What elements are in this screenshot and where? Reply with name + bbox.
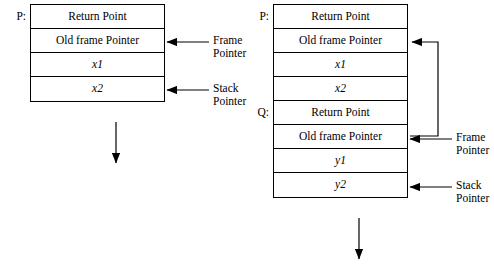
right-stack-cell-5: Old frame Pointer xyxy=(274,125,407,149)
left-stack-cell-2: x1 xyxy=(31,53,164,77)
right-stack-pointer-label: Stack Pointer xyxy=(456,179,489,205)
left-stack-pointer-label-line1: Stack xyxy=(213,82,246,95)
right-stack-cell-4: Return Point xyxy=(274,101,407,125)
left-stack: Return Point Old frame Pointer x1 x2 xyxy=(30,4,165,102)
right-frame-pointer-label-line1: Frame xyxy=(456,131,489,144)
left-stack-cell-0: Return Point xyxy=(31,5,164,29)
right-stack: Return Point Old frame Pointer x1 x2 Ret… xyxy=(273,4,408,198)
left-stack-cell-3: x2 xyxy=(31,77,164,101)
left-frame-pointer-label-line2: Pointer xyxy=(213,47,246,60)
left-stack-cell-3-text: x2 xyxy=(92,82,103,94)
left-frame-pointer-label-line1: Frame xyxy=(213,34,246,47)
right-stack-proc-label-q: Q: xyxy=(243,100,269,124)
right-stack-proc-label-p: P: xyxy=(243,4,269,28)
right-stack-cell-2-text: x1 xyxy=(335,58,346,70)
right-frame-pointer-label-line2: Pointer xyxy=(456,144,489,157)
right-stack-pointer-label-line1: Stack xyxy=(456,179,489,192)
right-stack-pointer-label-line2: Pointer xyxy=(456,192,489,205)
left-stack-proc-label: P: xyxy=(0,4,26,28)
right-stack-cell-6-text: y1 xyxy=(335,154,346,166)
left-frame-pointer-label: Frame Pointer xyxy=(213,34,246,60)
right-stack-cell-1: Old frame Pointer xyxy=(274,29,407,53)
right-stack-cell-2: x1 xyxy=(274,53,407,77)
right-stack-cell-3-text: x2 xyxy=(335,82,346,94)
right-stack-cell-6: y1 xyxy=(274,149,407,173)
left-stack-cell-2-text: x1 xyxy=(92,58,103,70)
left-stack-pointer-label: Stack Pointer xyxy=(213,82,246,108)
right-stack-cell-0: Return Point xyxy=(274,5,407,29)
right-stack-cell-3: x2 xyxy=(274,77,407,101)
left-stack-cell-1: Old frame Pointer xyxy=(31,29,164,53)
right-stack-cell-7-text: y2 xyxy=(335,178,346,190)
right-stack-cell-7: y2 xyxy=(274,173,407,197)
left-stack-pointer-label-line2: Pointer xyxy=(213,95,246,108)
dynamic-link-arrow xyxy=(410,42,438,136)
right-frame-pointer-label: Frame Pointer xyxy=(456,131,489,157)
